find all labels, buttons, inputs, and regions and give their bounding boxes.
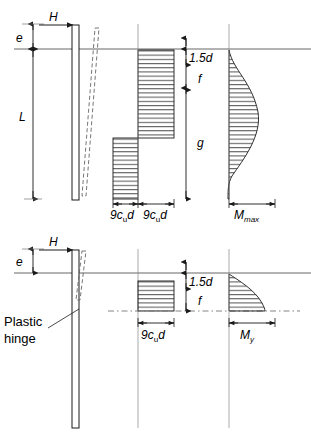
label-1-5d-upper: 1.5d xyxy=(189,51,213,65)
label-plastic-hinge-line2: hinge xyxy=(4,331,36,346)
label-e-lower: e xyxy=(16,255,23,269)
pile-lower xyxy=(72,250,79,428)
upper-panel xyxy=(14,24,311,208)
label-plastic-hinge-line1: Plastic xyxy=(4,314,43,329)
label-f-lower: f xyxy=(198,294,203,308)
dimension-L-upper xyxy=(24,49,42,199)
label-L-upper: L xyxy=(19,110,26,124)
label-1-5d-lower: 1.5d xyxy=(189,275,213,289)
figure-canvas: e H L 1.5d f g 9cud 9cud Mmax e H Plasti… xyxy=(0,0,311,438)
width-dimension-upper xyxy=(113,199,174,208)
pressure-block-upper-back xyxy=(113,138,138,199)
width-dimension-lower xyxy=(138,318,174,327)
label-g-upper: g xyxy=(197,136,204,150)
label-pressure-lower: 9cud xyxy=(141,328,165,344)
label-H-lower: H xyxy=(49,235,58,249)
dimension-e-lower xyxy=(22,249,44,273)
label-e-upper: e xyxy=(16,31,23,45)
label-My: My xyxy=(240,328,255,344)
deflected-shape-upper xyxy=(82,28,99,196)
width-dimension-moment-upper xyxy=(229,199,275,208)
pile-upper xyxy=(72,25,79,200)
label-Mmax: Mmax xyxy=(234,208,260,224)
label-pressure-upper-right: 9cud xyxy=(143,208,167,224)
moment-diagram-upper xyxy=(228,24,259,199)
pile-lateral-capacity-figure: e H L 1.5d f g 9cud 9cud Mmax e H Plasti… xyxy=(0,0,311,438)
pressure-block-lower xyxy=(138,281,174,311)
label-pressure-upper-left: 9cud xyxy=(110,208,134,224)
dimension-e-upper xyxy=(22,24,44,49)
label-f-upper: f xyxy=(198,72,203,86)
pressure-block-upper-front xyxy=(138,50,174,138)
label-H-upper: H xyxy=(49,10,58,24)
width-dimension-moment-lower xyxy=(229,318,275,327)
